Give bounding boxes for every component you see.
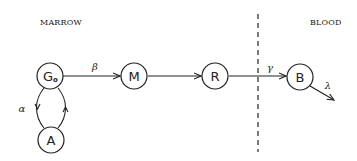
svg-text:R: R (210, 69, 219, 84)
arrowhead-down-icon (35, 104, 40, 109)
rate-beta: β (91, 61, 98, 72)
node-g0: G o (37, 63, 63, 89)
svg-text:B: B (296, 70, 305, 85)
edge-a-to-g0 (58, 88, 66, 128)
rate-lambda: λ (324, 80, 331, 91)
node-b: B (287, 64, 313, 90)
svg-text:G: G (43, 69, 53, 84)
node-m: M (121, 63, 147, 89)
compartment-diagram: MARROW BLOOD β γ λ α G o M R A B (0, 0, 357, 161)
region-label-marrow: MARROW (40, 18, 83, 27)
node-a: A (38, 127, 64, 153)
node-r: R (202, 63, 228, 89)
rate-gamma: γ (267, 62, 273, 73)
rate-alpha: α (19, 103, 26, 114)
svg-text:o: o (53, 76, 58, 84)
region-label-blood: BLOOD (310, 18, 342, 27)
svg-text:M: M (128, 69, 139, 84)
svg-text:A: A (47, 133, 56, 148)
